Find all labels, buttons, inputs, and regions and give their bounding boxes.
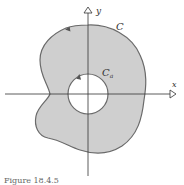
y-axis-arrow-icon bbox=[84, 7, 92, 13]
inner-curve-label-sub: a bbox=[110, 72, 114, 79]
diagram: y x C Ca bbox=[0, 0, 184, 185]
x-axis-arrow-icon bbox=[170, 90, 176, 98]
figure-caption: Figure 18.4.5 bbox=[4, 176, 59, 185]
y-axis-label: y bbox=[95, 6, 102, 16]
x-axis-label: x bbox=[172, 80, 177, 89]
outer-curve-label: C bbox=[116, 21, 124, 32]
